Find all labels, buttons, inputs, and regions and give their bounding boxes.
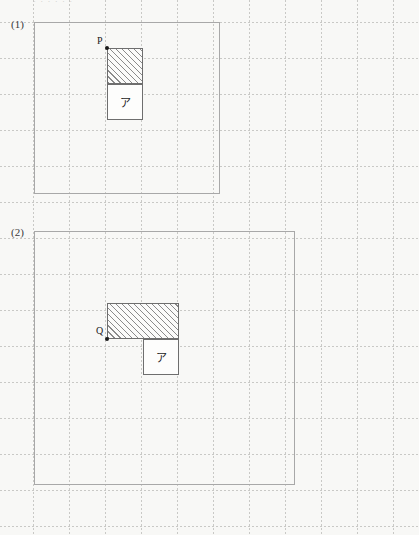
hatched-rectangle-2	[107, 303, 179, 339]
point-dot-q	[105, 337, 109, 341]
region-label-2: ア	[156, 353, 167, 364]
point-label-q: Q	[96, 326, 103, 336]
worksheet-page: · · · · · · (1) ア P (2) ア Q	[0, 0, 419, 535]
hatched-square-1	[107, 48, 143, 84]
problem-label-1: (1)	[11, 18, 24, 30]
problem-label-2: (2)	[11, 226, 24, 238]
region-label-1: ア	[120, 98, 131, 109]
cropped-header-text: · · · · · ·	[33, 0, 73, 6]
point-label-p: P	[97, 36, 103, 46]
point-dot-p	[105, 46, 109, 50]
